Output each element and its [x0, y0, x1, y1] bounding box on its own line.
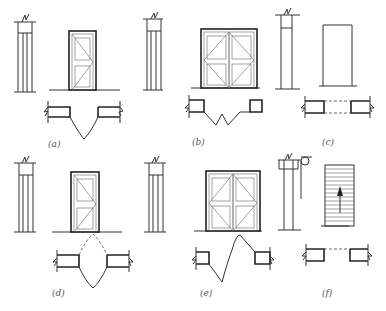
panel-label-d: (d) — [52, 288, 65, 298]
panel-label-e: (e) — [200, 288, 212, 298]
panel-c — [275, 8, 374, 118]
panel-label-f: (f) — [322, 288, 332, 298]
panel-a — [14, 14, 123, 139]
panel-f — [278, 153, 372, 266]
panel-e — [192, 171, 274, 282]
panel-d — [14, 156, 166, 288]
panel-b — [143, 12, 262, 125]
door-types-diagram — [0, 0, 386, 311]
panel-label-b: (b) — [192, 137, 205, 147]
panel-label-c: (c) — [322, 137, 334, 147]
panel-label-a: (a) — [48, 139, 60, 149]
